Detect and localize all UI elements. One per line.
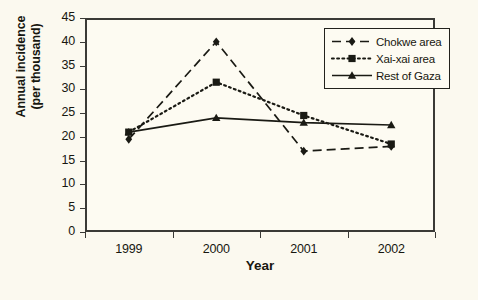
x-tick-mark <box>173 232 174 238</box>
y-tick-label: 0 <box>41 224 75 238</box>
y-tick-mark <box>80 89 85 90</box>
x-tick-mark <box>348 232 349 238</box>
y-tick-mark <box>80 184 85 185</box>
y-tick-label: 5 <box>41 200 75 214</box>
legend-key-triangle-icon <box>330 68 374 83</box>
chart-legend: Chokwe areaXai-xai areaRest of Gaza <box>324 28 450 89</box>
y-tick-mark <box>80 137 85 138</box>
y-tick-label: 10 <box>41 176 75 190</box>
y-tick-mark <box>80 42 85 43</box>
y-tick-mark <box>80 66 85 67</box>
data-point-square <box>348 55 355 62</box>
y-tick-label: 20 <box>41 129 75 143</box>
legend-item[interactable]: Chokwe area <box>330 33 442 50</box>
x-tick-label: 1999 <box>94 242 164 256</box>
y-axis-title-line2: (per thousand) <box>28 23 42 109</box>
y-tick-mark <box>80 18 85 19</box>
legend-key-diamond-icon <box>330 34 374 49</box>
y-tick-mark <box>80 113 85 114</box>
y-axis-title-line1: Annual incidence <box>14 16 28 118</box>
y-tick-label: 35 <box>41 58 75 72</box>
y-axis-title: Annual incidence (per thousand) <box>14 0 43 147</box>
x-tick-mark <box>85 232 86 238</box>
data-point-diamond <box>349 37 356 46</box>
y-tick-label: 25 <box>41 105 75 119</box>
y-tick-label: 40 <box>41 34 75 48</box>
legend-item[interactable]: Rest of Gaza <box>330 67 442 84</box>
x-tick-label: 2001 <box>269 242 339 256</box>
x-tick-mark <box>435 232 436 238</box>
legend-label: Chokwe area <box>374 36 442 48</box>
y-tick-mark <box>80 208 85 209</box>
legend-label: Rest of Gaza <box>374 70 441 82</box>
y-tick-label: 30 <box>41 81 75 95</box>
x-tick-label: 2000 <box>181 242 251 256</box>
legend-label: Xai-xai area <box>374 53 435 65</box>
chart-figure: Annual incidence (per thousand) 05101520… <box>0 0 478 300</box>
legend-item[interactable]: Xai-xai area <box>330 50 442 67</box>
y-tick-label: 45 <box>41 10 75 24</box>
legend-key-square-icon <box>330 51 374 66</box>
x-axis-title: Year <box>85 258 435 273</box>
y-tick-mark <box>80 161 85 162</box>
x-tick-label: 2002 <box>356 242 426 256</box>
x-tick-mark <box>260 232 261 238</box>
y-tick-label: 15 <box>41 153 75 167</box>
